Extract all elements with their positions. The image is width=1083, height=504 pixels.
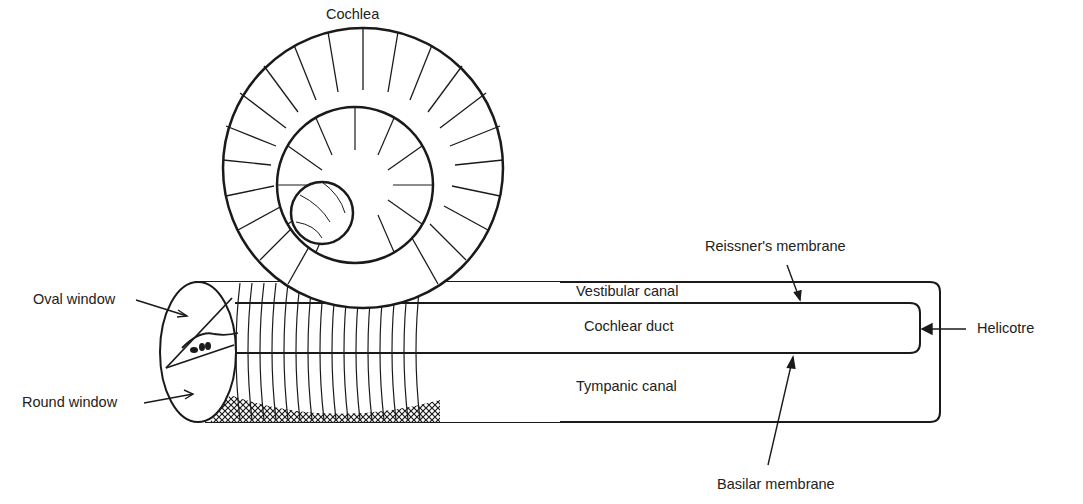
basilar-membrane-label: Basilar membrane (717, 476, 835, 492)
oval-window-label: Oval window (33, 291, 115, 307)
cochlear-duct-label: Cochlear duct (584, 318, 673, 334)
tube-end-cap (160, 282, 236, 422)
cochlea-diagram (0, 0, 1083, 504)
cochlea-spiral (223, 28, 503, 308)
cochlea-label: Cochlea (326, 6, 379, 22)
helicotre-label: Helicotre (977, 320, 1034, 336)
reissners-membrane-label: Reissner's membrane (705, 238, 846, 254)
tympanic-canal-label: Tympanic canal (576, 378, 677, 394)
round-window-label: Round window (22, 394, 117, 410)
vestibular-canal-label: Vestibular canal (576, 283, 678, 299)
